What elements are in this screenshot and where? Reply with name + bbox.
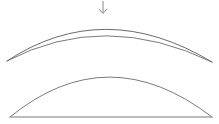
diagram-canvas — [0, 0, 219, 124]
figure-container — [0, 0, 219, 124]
canvas-background — [0, 0, 219, 124]
